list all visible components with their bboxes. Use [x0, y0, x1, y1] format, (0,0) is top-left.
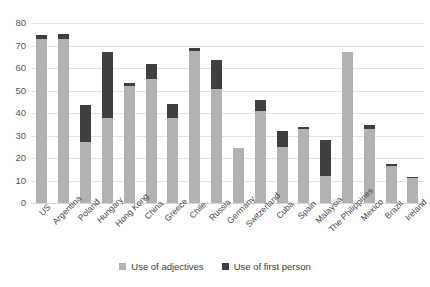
bar-segment-adjectives[interactable]: [36, 39, 47, 203]
bar-group[interactable]: [402, 23, 424, 203]
x-label-cell: Chile: [184, 205, 206, 263]
bar-stack[interactable]: [189, 48, 200, 203]
bar-stack[interactable]: [36, 35, 47, 203]
chart-legend: Use of adjectivesUse of first person: [0, 262, 430, 272]
legend-label: Use of first person: [234, 262, 311, 272]
bar-group[interactable]: [380, 23, 402, 203]
y-tick-label-20: 20: [15, 153, 26, 163]
bar-stack[interactable]: [146, 64, 157, 204]
bar-group[interactable]: [337, 23, 359, 203]
x-label-cell: Cuba: [271, 205, 293, 263]
bar-group[interactable]: [271, 23, 293, 203]
x-label-cell: Mexico: [358, 205, 380, 263]
bar-segment-adjectives[interactable]: [80, 142, 91, 203]
stacked-bar-chart: 01020304050607080 USArgentinaPolandHunga…: [0, 0, 430, 287]
legend-label: Use of adjectives: [131, 262, 203, 272]
bar-group[interactable]: [162, 23, 184, 203]
x-axis-labels: USArgentinaPolandHungaryHong KongChinaGr…: [31, 205, 424, 263]
bar-stack[interactable]: [407, 177, 418, 203]
bar-stack[interactable]: [298, 127, 309, 204]
x-label-cell: Greece: [162, 205, 184, 263]
bar-segment-adjectives[interactable]: [342, 52, 353, 203]
y-tick-label-50: 50: [15, 86, 26, 96]
bar-group[interactable]: [293, 23, 315, 203]
x-label-cell: China: [140, 205, 162, 263]
bar-stack[interactable]: [277, 131, 288, 203]
x-axis-tick-label: US: [38, 203, 53, 218]
y-tick-label-60: 60: [15, 63, 26, 73]
x-label-cell: US: [31, 205, 53, 263]
y-tick-label-0: 0: [21, 198, 26, 208]
bar-segment-first-person[interactable]: [102, 52, 113, 117]
x-label-cell: Hungary: [96, 205, 118, 263]
bar-group[interactable]: [140, 23, 162, 203]
bar-stack[interactable]: [167, 104, 178, 203]
bar-group[interactable]: [206, 23, 228, 203]
legend-item[interactable]: Use of first person: [222, 262, 311, 272]
bar-group[interactable]: [227, 23, 249, 203]
bar-segment-first-person[interactable]: [277, 131, 288, 147]
dark-gray-swatch: [222, 263, 229, 270]
bar-group[interactable]: [184, 23, 206, 203]
y-tick-label-40: 40: [15, 108, 26, 118]
bar-stack[interactable]: [320, 140, 331, 203]
bar-segment-adjectives[interactable]: [211, 89, 222, 203]
bar-segment-first-person[interactable]: [80, 105, 91, 142]
bar-group[interactable]: [75, 23, 97, 203]
y-tick-label-10: 10: [15, 176, 26, 186]
bar-group[interactable]: [96, 23, 118, 203]
x-label-cell: Argentina: [53, 205, 75, 263]
bar-stack[interactable]: [211, 60, 222, 203]
bar-group[interactable]: [31, 23, 53, 203]
bar-segment-first-person[interactable]: [211, 60, 222, 89]
x-label-cell: The Philippines: [337, 205, 359, 263]
bar-group[interactable]: [118, 23, 140, 203]
bar-group[interactable]: [53, 23, 75, 203]
bar-stack[interactable]: [233, 148, 244, 203]
bar-stack[interactable]: [124, 83, 135, 203]
x-label-cell: Hong Kong: [118, 205, 140, 263]
y-tick-label-70: 70: [15, 41, 26, 51]
bar-segment-adjectives[interactable]: [189, 51, 200, 203]
y-tick-label-80: 80: [15, 18, 26, 28]
x-label-cell: Poland: [75, 205, 97, 263]
bar-segment-first-person[interactable]: [320, 140, 331, 176]
bar-series-container: [31, 23, 424, 203]
bar-segment-first-person[interactable]: [146, 64, 157, 80]
bar-segment-adjectives[interactable]: [124, 86, 135, 203]
bar-segment-first-person[interactable]: [255, 100, 266, 111]
legend-item[interactable]: Use of adjectives: [119, 262, 203, 272]
bar-group[interactable]: [358, 23, 380, 203]
x-label-cell: Switzerland: [249, 205, 271, 263]
bar-segment-adjectives[interactable]: [386, 166, 397, 203]
bar-segment-adjectives[interactable]: [233, 148, 244, 203]
y-tick-label-30: 30: [15, 131, 26, 141]
bar-segment-adjectives[interactable]: [298, 129, 309, 203]
bar-segment-adjectives[interactable]: [255, 111, 266, 203]
bar-segment-adjectives[interactable]: [58, 39, 69, 203]
light-gray-swatch: [119, 263, 126, 270]
bar-stack[interactable]: [58, 34, 69, 203]
x-label-cell: Ireland: [402, 205, 424, 263]
plot-area: 01020304050607080: [31, 23, 424, 203]
bar-group[interactable]: [249, 23, 271, 203]
bar-segment-adjectives[interactable]: [146, 79, 157, 203]
bar-stack[interactable]: [80, 105, 91, 203]
bar-segment-adjectives[interactable]: [102, 118, 113, 204]
bar-group[interactable]: [315, 23, 337, 203]
x-label-cell: Brazil: [380, 205, 402, 263]
bar-segment-adjectives[interactable]: [167, 118, 178, 204]
bar-segment-adjectives[interactable]: [407, 178, 418, 203]
x-label-cell: Germany: [227, 205, 249, 263]
bar-stack[interactable]: [342, 52, 353, 203]
bar-stack[interactable]: [102, 52, 113, 203]
x-label-cell: Spain: [293, 205, 315, 263]
bar-segment-adjectives[interactable]: [320, 176, 331, 203]
bar-segment-first-person[interactable]: [167, 104, 178, 118]
bar-stack[interactable]: [386, 164, 397, 203]
x-label-cell: Russia: [206, 205, 228, 263]
bar-stack[interactable]: [255, 100, 266, 204]
